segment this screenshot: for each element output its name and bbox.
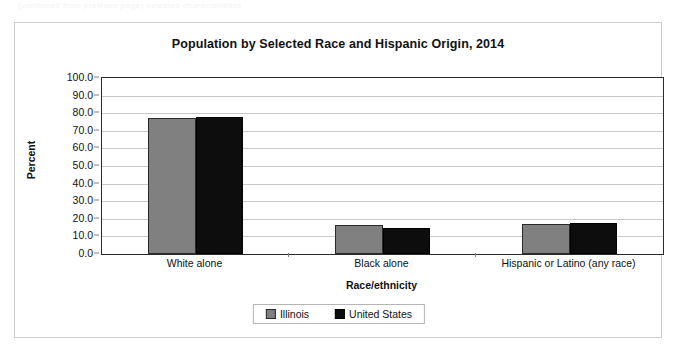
x-tick-label: Hispanic or Latino (any race) <box>501 257 635 269</box>
bar-illinois <box>522 224 570 254</box>
legend-item: United States <box>335 308 412 320</box>
x-tick-mark <box>288 253 289 257</box>
y-tick-mark <box>94 235 99 236</box>
y-tick-label: 90.0 <box>73 89 93 101</box>
y-tick-label: 10.0 <box>73 229 93 241</box>
y-tick-mark <box>94 200 99 201</box>
y-tick-mark <box>94 182 99 183</box>
bar-illinois <box>335 225 383 254</box>
y-axis-tick-labels: 0.010.020.030.040.050.060.070.080.090.01… <box>37 77 99 253</box>
bar-illinois <box>148 118 196 254</box>
bars-layer <box>102 78 663 254</box>
legend-label: Illinois <box>280 308 309 320</box>
legend-swatch-illinois <box>266 309 276 319</box>
legend-swatch-united-states <box>335 309 345 319</box>
y-tick-label: 70.0 <box>73 124 93 136</box>
scan-artifact-text: (continued from previous page) selected … <box>0 0 678 12</box>
y-tick-label: 0.0 <box>78 247 93 259</box>
y-tick-label: 20.0 <box>73 212 93 224</box>
bar-group <box>335 78 430 254</box>
x-tick-label: Black alone <box>354 257 408 269</box>
bar-group <box>522 78 617 254</box>
legend-item: Illinois <box>266 308 309 320</box>
bar-group <box>148 78 243 254</box>
y-tick-label: 50.0 <box>73 159 93 171</box>
chart-frame: Population by Selected Race and Hispanic… <box>14 22 662 338</box>
bar-united-states <box>196 117 244 254</box>
y-tick-mark <box>94 147 99 148</box>
x-axis-tick-labels: White aloneBlack aloneHispanic or Latino… <box>101 257 662 275</box>
y-tick-mark <box>94 94 99 95</box>
x-axis-title: Race/ethnicity <box>101 279 662 291</box>
y-tick-label: 100.0 <box>67 71 93 83</box>
y-tick-mark <box>94 77 99 78</box>
x-tick-mark <box>475 253 476 257</box>
legend-label: United States <box>349 308 412 320</box>
chart-legend: IllinoisUnited States <box>253 304 425 324</box>
y-tick-label: 40.0 <box>73 177 93 189</box>
y-tick-mark <box>94 217 99 218</box>
x-tick-label: White alone <box>167 257 222 269</box>
y-tick-mark <box>94 253 99 254</box>
plot-area <box>101 77 664 255</box>
bar-united-states <box>383 228 431 254</box>
bar-united-states <box>570 223 618 254</box>
y-tick-mark <box>94 129 99 130</box>
y-tick-label: 30.0 <box>73 194 93 206</box>
y-tick-mark <box>94 165 99 166</box>
y-tick-label: 60.0 <box>73 141 93 153</box>
y-tick-label: 80.0 <box>73 106 93 118</box>
plot-wrapper: Percent 0.010.020.030.040.050.060.070.08… <box>15 23 663 339</box>
y-tick-mark <box>94 112 99 113</box>
